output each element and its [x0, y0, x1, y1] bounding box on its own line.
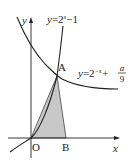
fraction-numerator: a: [120, 63, 125, 73]
graph-figure: y=2x−1 y=2−x+ a 9 A B O x y: [0, 0, 133, 162]
label-decay: y=2−x+ a 9: [77, 63, 126, 84]
y-axis-label: y: [21, 14, 27, 26]
x-axis-arrow-icon: [114, 136, 120, 140]
point-b-label: B: [62, 141, 69, 153]
svg-text:y=2x−1: y=2x−1: [46, 13, 78, 25]
shaded-triangle-oab: [31, 76, 66, 138]
y-axis-arrow-icon: [29, 17, 33, 23]
origin-label: O: [32, 141, 40, 153]
x-axis-label: x: [112, 142, 118, 154]
label-growth: y=2x−1: [46, 13, 78, 25]
svg-text:y=2−x+: y=2−x+: [77, 67, 109, 79]
fraction-denominator: 9: [120, 74, 125, 84]
point-a-label: A: [58, 61, 66, 73]
